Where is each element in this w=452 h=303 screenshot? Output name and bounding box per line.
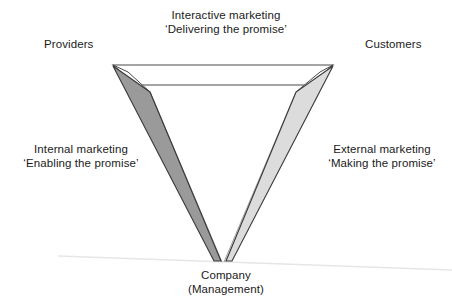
- label-interactive-marketing: Interactive marketing ‘Delivering the pr…: [0, 8, 452, 36]
- label-internal-marketing: Internal marketing ‘Enabling the promise…: [8, 142, 154, 170]
- label-company: Company (Management): [0, 268, 452, 296]
- label-external-marketing-line2: ‘Making the promise’: [318, 156, 446, 170]
- label-interactive-marketing-line1: Interactive marketing: [0, 8, 452, 22]
- label-interactive-marketing-line2: ‘Delivering the promise’: [0, 22, 452, 36]
- label-company-line1: Company: [0, 268, 452, 282]
- label-customers: Customers: [365, 37, 422, 51]
- label-internal-marketing-line2: ‘Enabling the promise’: [8, 156, 154, 170]
- label-company-line2: (Management): [0, 282, 452, 296]
- label-external-marketing: External marketing ‘Making the promise’: [318, 142, 446, 170]
- label-providers: Providers: [44, 37, 93, 51]
- label-external-marketing-line1: External marketing: [318, 142, 446, 156]
- label-internal-marketing-line1: Internal marketing: [8, 142, 154, 156]
- top-band-face: [113, 65, 333, 85]
- apex-seam-right: [224, 92, 296, 262]
- right-arm-external-marketing: [226, 66, 333, 261]
- diagram-canvas: Interactive marketing ‘Delivering the pr…: [0, 0, 452, 303]
- top-band-interactive-marketing: [113, 65, 333, 92]
- apex-seam: [150, 92, 222, 262]
